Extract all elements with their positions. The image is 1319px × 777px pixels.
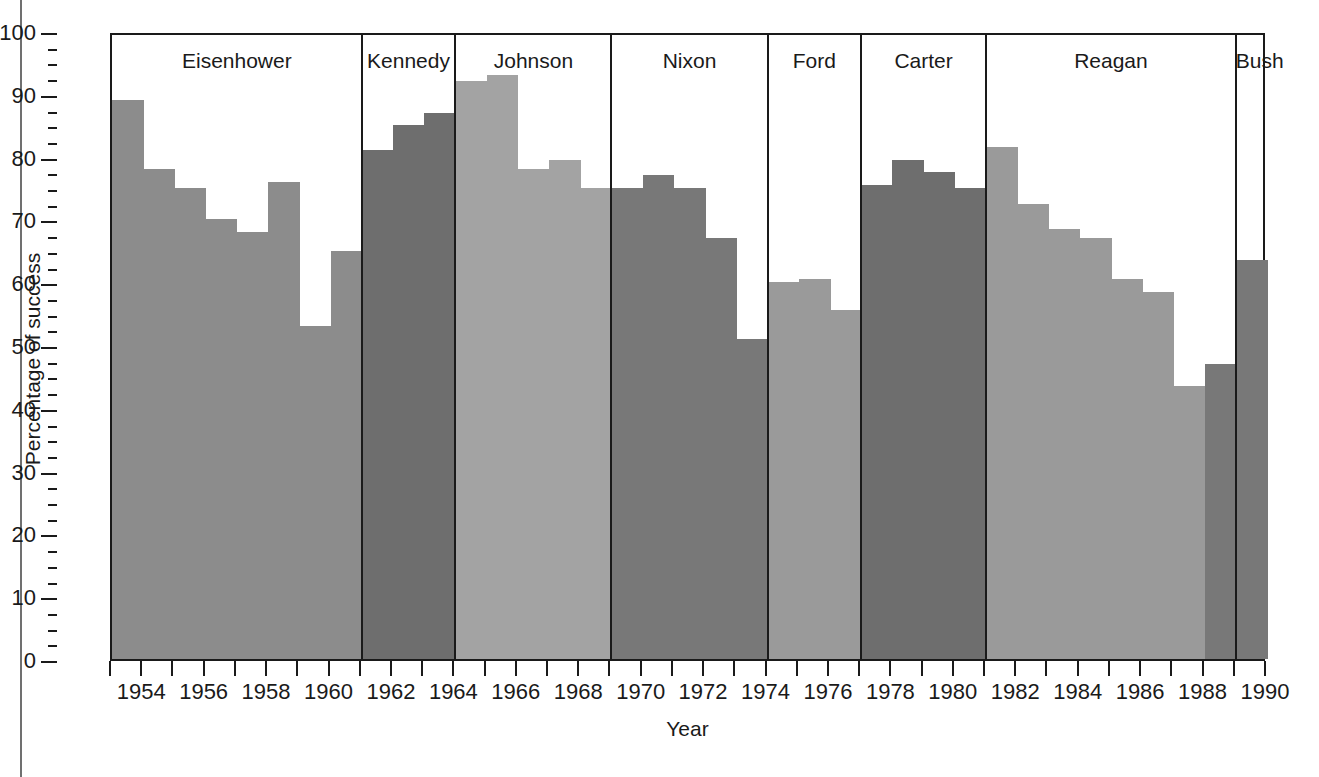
y-tick-major bbox=[41, 661, 57, 663]
x-tick bbox=[234, 661, 236, 676]
x-tick-label: 1956 bbox=[179, 680, 228, 704]
y-tick-minor bbox=[48, 457, 57, 459]
y-tick-major bbox=[41, 535, 57, 537]
y-tick-minor bbox=[48, 331, 57, 333]
x-tick bbox=[484, 661, 486, 676]
x-tick bbox=[109, 661, 111, 676]
chart-figure: Percentage of success 010203040506070809… bbox=[0, 0, 1319, 777]
y-tick-minor bbox=[48, 614, 57, 616]
y-tick-minor bbox=[48, 253, 57, 255]
administration-label-reagan: Reagan bbox=[986, 49, 1236, 73]
x-tick bbox=[140, 661, 142, 676]
y-tick-minor bbox=[48, 300, 57, 302]
y-tick-minor bbox=[48, 127, 57, 129]
x-tick bbox=[608, 661, 610, 676]
y-tick-minor bbox=[48, 567, 57, 569]
x-tick-label: 1990 bbox=[1241, 680, 1290, 704]
x-tick bbox=[515, 661, 517, 676]
y-tick-minor bbox=[48, 441, 57, 443]
x-tick-label: 1988 bbox=[1178, 680, 1227, 704]
y-tick-major bbox=[41, 284, 57, 286]
y-tick-label: 40 bbox=[12, 399, 36, 421]
x-tick bbox=[203, 661, 205, 676]
x-tick bbox=[733, 661, 735, 676]
plot-area: EisenhowerKennedyJohnsonNixonFordCarterR… bbox=[110, 33, 1265, 661]
x-tick bbox=[671, 661, 673, 676]
x-tick-label: 1960 bbox=[304, 680, 353, 704]
y-tick-label: 20 bbox=[12, 524, 36, 546]
y-tick-major bbox=[41, 347, 57, 349]
x-tick bbox=[889, 661, 891, 676]
x-tick bbox=[390, 661, 392, 676]
administration-label-kennedy: Kennedy bbox=[362, 49, 456, 73]
y-tick-minor bbox=[48, 49, 57, 51]
x-tick bbox=[265, 661, 267, 676]
x-tick-label: 1980 bbox=[928, 680, 977, 704]
y-tick-minor bbox=[48, 551, 57, 553]
x-tick-label: 1976 bbox=[803, 680, 852, 704]
y-tick-label: 70 bbox=[12, 210, 36, 232]
x-tick bbox=[1233, 661, 1235, 676]
x-tick bbox=[1202, 661, 1204, 676]
y-tick-minor bbox=[48, 190, 57, 192]
x-tick bbox=[765, 661, 767, 676]
x-tick bbox=[827, 661, 829, 676]
y-tick-minor bbox=[48, 143, 57, 145]
x-tick bbox=[1264, 661, 1266, 676]
y-tick-minor bbox=[48, 269, 57, 271]
y-tick-minor bbox=[48, 426, 57, 428]
x-tick-label: 1964 bbox=[429, 680, 478, 704]
x-tick bbox=[171, 661, 173, 676]
y-tick-minor bbox=[48, 520, 57, 522]
x-tick-label: 1954 bbox=[117, 680, 166, 704]
administration-label-carter: Carter bbox=[861, 49, 986, 73]
y-tick-minor bbox=[48, 206, 57, 208]
y-tick-major bbox=[41, 410, 57, 412]
x-tick-label: 1978 bbox=[866, 680, 915, 704]
y-tick-minor bbox=[48, 488, 57, 490]
y-tick-major bbox=[41, 221, 57, 223]
y-tick-label: 100 bbox=[0, 22, 36, 44]
y-tick-major bbox=[41, 96, 57, 98]
x-tick bbox=[921, 661, 923, 676]
y-tick-major bbox=[41, 159, 57, 161]
y-tick-major bbox=[41, 473, 57, 475]
x-tick bbox=[577, 661, 579, 676]
y-tick-label: 80 bbox=[12, 148, 36, 170]
y-tick-minor bbox=[48, 583, 57, 585]
y-tick-label: 30 bbox=[12, 462, 36, 484]
administration-label-nixon: Nixon bbox=[611, 49, 767, 73]
administration-label-eisenhower: Eisenhower bbox=[112, 49, 362, 73]
administration-label-bush: Bush bbox=[1236, 49, 1267, 73]
x-tick-label: 1968 bbox=[554, 680, 603, 704]
x-tick bbox=[1139, 661, 1141, 676]
x-tick bbox=[1077, 661, 1079, 676]
y-axis: Percentage of success 010203040506070809… bbox=[0, 0, 112, 777]
y-tick-minor bbox=[48, 237, 57, 239]
x-tick bbox=[1108, 661, 1110, 676]
x-axis-title: Year bbox=[110, 717, 1265, 741]
y-tick-minor bbox=[48, 394, 57, 396]
x-tick-label: 1958 bbox=[242, 680, 291, 704]
administration-labels-layer: EisenhowerKennedyJohnsonNixonFordCarterR… bbox=[112, 35, 1263, 659]
y-tick-minor bbox=[48, 645, 57, 647]
x-tick bbox=[952, 661, 954, 676]
x-tick bbox=[702, 661, 704, 676]
x-tick bbox=[452, 661, 454, 676]
x-tick-label: 1982 bbox=[991, 680, 1040, 704]
x-tick-label: 1984 bbox=[1053, 680, 1102, 704]
y-tick-label: 50 bbox=[12, 336, 36, 358]
x-tick-label: 1966 bbox=[491, 680, 540, 704]
x-tick bbox=[983, 661, 985, 676]
x-tick bbox=[359, 661, 361, 676]
y-tick-label: 10 bbox=[12, 587, 36, 609]
x-tick-label: 1986 bbox=[1116, 680, 1165, 704]
x-tick-label: 1972 bbox=[679, 680, 728, 704]
x-tick bbox=[796, 661, 798, 676]
y-tick-minor bbox=[48, 174, 57, 176]
y-tick-minor bbox=[48, 504, 57, 506]
y-tick-minor bbox=[48, 80, 57, 82]
x-tick bbox=[421, 661, 423, 676]
x-tick bbox=[1045, 661, 1047, 676]
y-tick-minor bbox=[48, 112, 57, 114]
